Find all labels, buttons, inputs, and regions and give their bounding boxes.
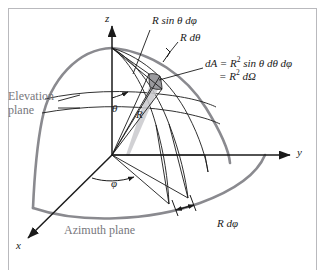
axis-label-x: x — [16, 239, 21, 252]
axis-label-z: z — [105, 12, 109, 25]
label-elevation-plane: Elevation plane — [8, 90, 54, 118]
area-equation-line-2: = R2 dΩ — [205, 69, 292, 82]
r-dtheta-bracket — [163, 48, 170, 62]
label-arc-r-dphi: R dφ — [217, 217, 238, 230]
leader-arc-theta — [170, 42, 178, 52]
diagram-canvas — [0, 0, 327, 272]
radius-label-R: R — [136, 108, 143, 121]
label-differential-area: dA = R2 sin θ dθ dφ = R2 dΩ — [205, 56, 292, 83]
r-dphi-bracket — [172, 195, 196, 216]
label-azimuth-plane: Azimuth plane — [64, 224, 135, 238]
theta-angle-arc — [112, 92, 128, 98]
elevation-plane-line-2: plane — [8, 104, 54, 118]
area-line2-suffix: dΩ — [240, 70, 256, 82]
area-line2-prefix: = R — [219, 70, 236, 82]
label-arc-r-dtheta: R dθ — [180, 31, 200, 44]
sphere-grid-curves — [42, 48, 220, 204]
area-equation-line-1: dA = R2 sin θ dθ dφ — [205, 56, 292, 69]
figure-container: z y x θ φ R R sin θ dφ R dθ dA = R2 sin … — [0, 0, 327, 272]
angle-label-phi: φ — [111, 177, 117, 190]
area-line1-prefix: dA = R — [205, 57, 237, 69]
area-line1-suffix: sin θ dθ dφ — [240, 57, 292, 69]
label-arc-r-sin-theta-dphi: R sin θ dφ — [152, 14, 197, 27]
elevation-plane-line-1: Elevation — [8, 90, 54, 104]
axis-label-y: y — [297, 146, 302, 159]
angle-label-theta: θ — [112, 102, 117, 115]
